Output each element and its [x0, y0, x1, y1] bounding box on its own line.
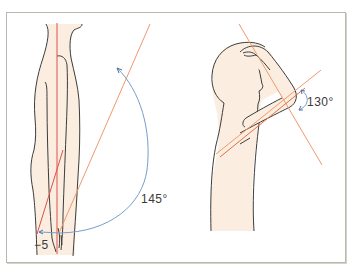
angle-label-145: 145° — [141, 192, 168, 206]
angle-label-minus5: −5 — [34, 238, 49, 252]
figure-right-arm-raised — [210, 24, 322, 231]
angle-label-130: 130° — [307, 95, 334, 109]
figure-left-side-view — [31, 23, 150, 256]
diagram-canvas — [0, 0, 353, 270]
